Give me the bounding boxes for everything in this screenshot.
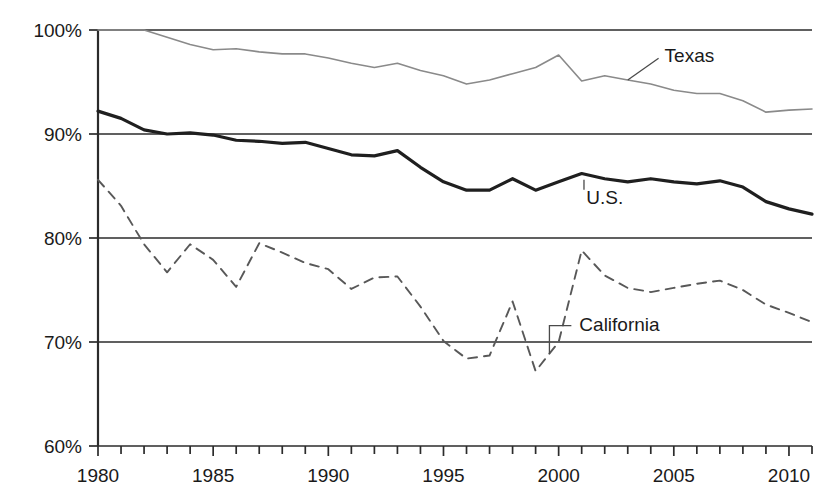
x-axis	[98, 446, 812, 456]
x-tick-label-1990: 1990	[307, 465, 349, 486]
y-tick-label-90: 90%	[44, 124, 82, 145]
x-tick-label-2005: 2005	[653, 465, 695, 486]
chart-container: 100%90%80%70%60% 19801985199019952000200…	[0, 0, 831, 498]
x-tick-label-2010: 2010	[768, 465, 810, 486]
series-label-us: U.S.	[586, 187, 623, 208]
y-tick-label-60: 60%	[44, 436, 82, 457]
y-tick-label-70: 70%	[44, 332, 82, 353]
series-line-us	[98, 111, 812, 214]
series-label-texas: Texas	[665, 45, 715, 66]
series-line-texas	[98, 30, 812, 112]
line-chart: 100%90%80%70%60% 19801985199019952000200…	[0, 0, 831, 498]
leader-line-texas	[628, 58, 659, 80]
series-label-california: California	[579, 314, 660, 335]
y-tick-label-100: 100%	[33, 20, 82, 41]
y-tick-label-80: 80%	[44, 228, 82, 249]
gridlines	[98, 30, 812, 446]
y-axis	[89, 30, 98, 446]
x-tick-label-1985: 1985	[192, 465, 234, 486]
series-annotations: TexasU.S.California	[549, 45, 714, 354]
x-tick-label-1995: 1995	[422, 465, 464, 486]
data-series	[98, 30, 812, 371]
y-tick-labels: 100%90%80%70%60%	[33, 20, 82, 457]
x-tick-labels: 1980198519901995200020052010	[77, 465, 810, 486]
x-tick-label-2000: 2000	[538, 465, 580, 486]
x-tick-label-1980: 1980	[77, 465, 119, 486]
